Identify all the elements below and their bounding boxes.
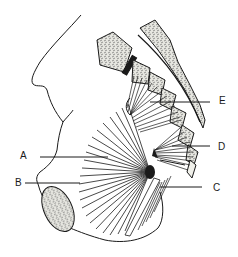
label-e: E — [219, 96, 226, 106]
sacrum — [97, 32, 198, 178]
pelvic-floor-diagram: A B C D E — [0, 0, 238, 257]
thigh-outline — [63, 110, 73, 122]
label-b: B — [15, 178, 22, 188]
label-a: A — [20, 151, 27, 161]
muscle-convergence — [145, 165, 155, 179]
diagram-drawing — [0, 0, 238, 257]
body-outline — [32, 15, 81, 184]
pubic-bone — [35, 181, 81, 236]
label-c: C — [213, 183, 220, 193]
label-d: D — [218, 142, 225, 152]
